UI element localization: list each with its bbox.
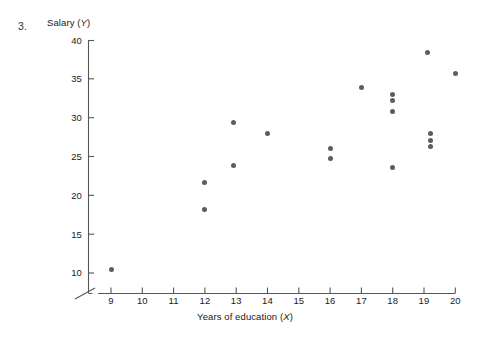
x-tick-label: 11 [163,295,185,306]
y-tick-label: 40 [58,35,82,46]
data-point [428,138,433,143]
x-tick-label: 12 [194,295,216,306]
data-point [425,50,430,55]
data-point [328,156,333,161]
y-tick-label: 35 [58,73,82,84]
x-tick-label: 13 [225,295,247,306]
plot-axes [0,0,490,339]
axis-break-icon [75,288,98,303]
x-tick-marks [111,288,455,294]
x-tick-label: 19 [413,295,435,306]
data-point [390,98,395,103]
x-tick-label: 17 [350,295,372,306]
x-tick-label: 20 [444,295,466,306]
data-point [328,146,333,151]
y-tick-label: 25 [58,151,82,162]
x-tick-label: 10 [131,295,153,306]
y-tick-label: 15 [58,229,82,240]
data-point [231,163,236,168]
x-tick-label: 15 [288,295,310,306]
x-axis-title: Years of education (X) [0,311,490,322]
data-point [231,120,236,125]
y-tick-label: 20 [58,190,82,201]
x-tick-label: 18 [382,295,404,306]
y-tick-label: 10 [58,267,82,278]
x-axis-title-suffix: ) [290,311,293,322]
data-point [109,267,114,272]
x-axis-title-prefix: Years of education ( [197,311,283,322]
y-tick-marks [89,79,95,273]
x-tick-label: 9 [100,295,122,306]
y-tick-label: 30 [58,112,82,123]
data-point [428,131,433,136]
data-point [359,85,364,90]
data-point [453,71,458,76]
x-tick-label: 14 [257,295,279,306]
scatter-plot-figure: 3. Salary (Y) [0,0,490,339]
x-tick-label: 16 [319,295,341,306]
